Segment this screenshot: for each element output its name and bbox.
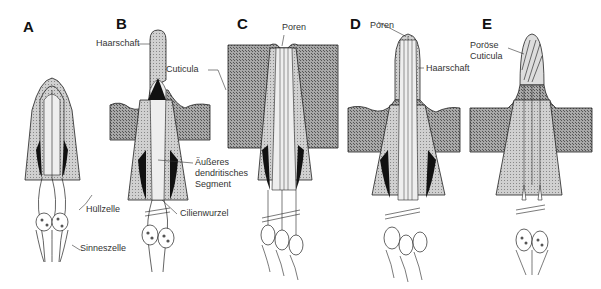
label-poren-c: Poren <box>282 22 306 33</box>
panel-letter-a: A <box>23 18 34 35</box>
label-poroese-1: Poröse <box>470 40 499 51</box>
panel-letter-c: C <box>237 15 248 32</box>
panel-letter-b: B <box>116 15 127 32</box>
label-poroese-2: Cuticula <box>470 51 503 62</box>
label-huellzelle: Hüllzelle <box>86 204 120 215</box>
label-haarschaft-b: Haarschaft <box>96 38 140 49</box>
panel-e-sensillum <box>470 34 592 275</box>
panel-letter-d: D <box>350 15 361 32</box>
panel-a-sensillum <box>25 78 80 262</box>
label-aeusseres-3: Segment <box>195 179 231 190</box>
panel-c-sensillum <box>228 44 338 280</box>
label-haarschaft-d: Haarschaft <box>426 63 470 74</box>
label-aeusseres-2: dendritisches <box>195 168 248 179</box>
label-cilienwurzel: Cilienwurzel <box>180 208 229 219</box>
label-poren-d: Poren <box>370 20 394 31</box>
panel-letter-e: E <box>482 15 492 32</box>
label-sinneszelle: Sinneszelle <box>80 243 126 254</box>
label-aeusseres-1: Äußeres <box>195 157 229 168</box>
label-cuticula: Cuticula <box>166 64 199 75</box>
